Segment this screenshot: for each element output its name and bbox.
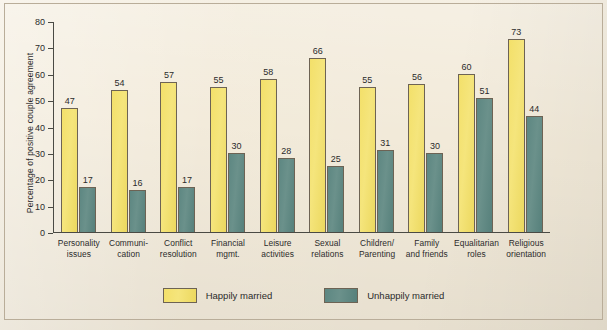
- bar-unhappy: 17: [178, 187, 195, 232]
- x-axis-label-line: Personality: [54, 238, 104, 249]
- bar-group: 4717: [54, 22, 104, 232]
- bar-happy: 55: [359, 87, 376, 232]
- bar-value-label: 47: [65, 96, 75, 106]
- x-axis-label: Personalityissues: [54, 238, 104, 260]
- bar-unhappy: 51: [476, 98, 493, 233]
- y-tick-mark: [48, 233, 53, 234]
- y-tick-mark: [48, 48, 53, 49]
- bar-value-label: 54: [114, 78, 124, 88]
- bar-happy: 47: [61, 108, 78, 232]
- x-axis-label: Communi-cation: [104, 238, 154, 260]
- bar-groups: 4717541657175530582866255531563060517344: [54, 22, 550, 232]
- bar-value-label: 60: [462, 62, 472, 72]
- bar-happy: 55: [210, 87, 227, 232]
- bar-group: 5531: [352, 22, 402, 232]
- bar-unhappy: 17: [79, 187, 96, 232]
- bar-happy: 56: [408, 84, 425, 232]
- y-tick-mark: [48, 180, 53, 181]
- y-tick-label: 20: [35, 175, 45, 185]
- chart-figure: Percentage of positive couple agreement …: [0, 0, 607, 330]
- x-axis-label-line: Leisure: [253, 238, 303, 249]
- x-axis-line: [53, 232, 550, 233]
- x-axis-label-line: activities: [253, 249, 303, 260]
- bar-value-label: 17: [182, 175, 192, 185]
- y-axis-title: Percentage of positive couple agreement: [25, 26, 35, 241]
- y-tick-mark: [48, 22, 53, 23]
- plot-area: 01020304050607080 4717541657175530582866…: [53, 22, 550, 233]
- x-axis-label-line: roles: [452, 249, 502, 260]
- x-axis-label-line: Equalitarian: [452, 238, 502, 249]
- bar-group: 5630: [401, 22, 451, 232]
- y-tick-label: 30: [35, 149, 45, 159]
- legend-label-unhappily-married: Unhappily married: [367, 290, 444, 301]
- bar-unhappy: 25: [327, 166, 344, 232]
- bar-group: 5530: [203, 22, 253, 232]
- bar-happy: 54: [111, 90, 128, 232]
- bar-group: 5828: [252, 22, 302, 232]
- bar-value-label: 73: [511, 27, 521, 37]
- y-tick-mark: [48, 154, 53, 155]
- x-axis-label-line: Family: [402, 238, 452, 249]
- legend-swatch-unhappily-married: [324, 288, 358, 303]
- legend-item-unhappily-married: Unhappily married: [324, 288, 444, 303]
- x-axis-label-line: orientation: [501, 249, 551, 260]
- x-axis-label-line: issues: [54, 249, 104, 260]
- bar-happy: 57: [160, 82, 177, 232]
- y-tick-mark: [48, 207, 53, 208]
- bar-value-label: 16: [132, 178, 142, 188]
- y-tick-label: 80: [35, 17, 45, 27]
- bar-unhappy: 31: [377, 150, 394, 232]
- bar-value-label: 44: [529, 104, 539, 114]
- legend-label-happily-married: Happily married: [206, 290, 273, 301]
- legend-item-happily-married: Happily married: [163, 288, 273, 303]
- bar-group: 5717: [153, 22, 203, 232]
- x-axis-label: Sexualrelations: [303, 238, 353, 260]
- y-tick-mark: [48, 128, 53, 129]
- bar-value-label: 28: [281, 146, 291, 156]
- bar-happy: 66: [309, 58, 326, 232]
- x-axis-label-line: Sexual: [303, 238, 353, 249]
- bar-value-label: 55: [362, 75, 372, 85]
- x-axis-label: Financialmgmt.: [203, 238, 253, 260]
- bar-value-label: 30: [430, 141, 440, 151]
- bar-happy: 58: [260, 79, 277, 232]
- x-axis-label-line: Financial: [203, 238, 253, 249]
- x-axis-label-line: cation: [104, 249, 154, 260]
- x-axis-label-line: and friends: [402, 249, 452, 260]
- y-tick-label: 10: [35, 202, 45, 212]
- bar-value-label: 17: [83, 175, 93, 185]
- bar-value-label: 31: [380, 138, 390, 148]
- y-tick-label: 50: [35, 96, 45, 106]
- bar-group: 5416: [104, 22, 154, 232]
- x-axis-label-line: Parenting: [352, 249, 402, 260]
- x-axis-label: Children/Parenting: [352, 238, 402, 260]
- bar-value-label: 25: [331, 154, 341, 164]
- x-axis-label-line: Religious: [501, 238, 551, 249]
- y-tick-mark: [48, 75, 53, 76]
- bar-unhappy: 44: [526, 116, 543, 232]
- x-axis-label-line: mgmt.: [203, 249, 253, 260]
- y-tick-mark: [48, 101, 53, 102]
- x-axis-label-line: Communi-: [104, 238, 154, 249]
- y-tick-label: 70: [35, 43, 45, 53]
- bar-unhappy: 30: [426, 153, 443, 232]
- x-axis-label-line: relations: [303, 249, 353, 260]
- bar-value-label: 66: [313, 46, 323, 56]
- legend-swatch-happily-married: [163, 288, 197, 303]
- x-axis-label: Conflictresolution: [153, 238, 203, 260]
- bar-unhappy: 28: [278, 158, 295, 232]
- bar-unhappy: 30: [228, 153, 245, 232]
- chart-legend: Happily married Unhappily married: [0, 288, 607, 303]
- y-tick-label: 40: [35, 123, 45, 133]
- bar-group: 6051: [451, 22, 501, 232]
- bar-value-label: 51: [480, 86, 490, 96]
- bar-value-label: 57: [164, 70, 174, 80]
- bar-value-label: 55: [214, 75, 224, 85]
- x-axis-label: Leisureactivities: [253, 238, 303, 260]
- x-axis-label: Religiousorientation: [501, 238, 551, 260]
- bar-value-label: 58: [263, 67, 273, 77]
- x-axis-label-line: Children/: [352, 238, 402, 249]
- bar-group: 6625: [302, 22, 352, 232]
- bar-value-label: 30: [232, 141, 242, 151]
- bar-happy: 60: [458, 74, 475, 232]
